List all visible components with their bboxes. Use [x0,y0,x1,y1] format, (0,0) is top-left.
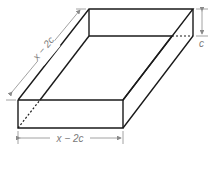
width-label: x − 2c [56,133,84,144]
box-edges [18,9,193,128]
height-dimension: c [196,9,208,49]
height-label: c [199,38,204,49]
width-dimension: x − 2c [18,131,123,144]
box-diagram: x − 2c c x − 2c [0,0,216,180]
